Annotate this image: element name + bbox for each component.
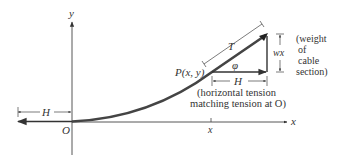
x-tick-label: x <box>207 124 213 135</box>
point-label: P(x, y) <box>174 66 205 79</box>
weight-note-3: cable <box>298 55 320 66</box>
catenary-diagram: y x H O T φ P(x, y) wx (weight of cable … <box>0 0 347 159</box>
x-axis-label: x <box>290 115 296 127</box>
tension-label: T <box>228 40 235 52</box>
weight-note-2: of <box>298 44 307 55</box>
angle-label: φ <box>232 59 238 71</box>
horizontal-note-2: matching tension at O) <box>190 98 286 110</box>
weight-label: wx <box>273 47 285 58</box>
origin-label: O <box>62 124 70 136</box>
h-right-label: H <box>233 75 243 87</box>
h-left-label: H <box>41 106 51 118</box>
y-axis-label: y <box>68 7 74 19</box>
weight-note-4: section) <box>296 66 328 78</box>
t-tick-end <box>260 21 264 27</box>
